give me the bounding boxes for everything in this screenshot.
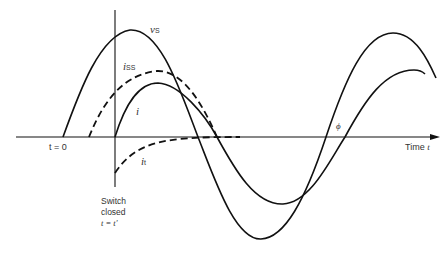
label-phase: ϕ — [336, 122, 341, 131]
waveform-diagram — [0, 0, 445, 253]
curve-it — [115, 137, 240, 173]
label-switch-closed: Switch closed t = t′ — [101, 196, 126, 229]
phase-symbol: ϕ — [336, 121, 341, 131]
switch-text-line2: closed — [101, 207, 126, 218]
label-vs-sub: S — [155, 27, 160, 34]
label-it: it — [141, 156, 146, 167]
time-axis-label: Time — [405, 142, 427, 152]
switch-text-line3: t = t′ — [101, 218, 126, 229]
label-iss: iSS — [123, 61, 135, 72]
label-time-axis: Time t — [405, 143, 430, 152]
time-axis-arrow-icon — [430, 134, 440, 140]
t0-text: t = 0 — [49, 142, 67, 152]
label-iss-sub: SS — [126, 64, 135, 71]
label-i: i — [136, 106, 139, 117]
label-vs: vS — [150, 24, 160, 35]
switch-text-line1: Switch — [101, 196, 126, 207]
time-axis-var: t — [427, 142, 430, 152]
label-it-sub: t — [144, 159, 146, 166]
label-i-main: i — [136, 105, 139, 117]
label-t0: t = 0 — [49, 143, 67, 152]
curve-iss — [89, 71, 217, 137]
